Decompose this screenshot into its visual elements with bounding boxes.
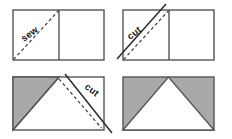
panel-top-right: cut xyxy=(117,4,214,60)
panel-top-left: sew xyxy=(13,10,104,60)
panel-bottom-left: cut xyxy=(13,74,112,133)
quilting-diagram: sew cut cut xyxy=(0,0,232,139)
diagram-canvas: sew cut cut xyxy=(0,0,232,139)
panel-bottom-right xyxy=(123,77,214,130)
